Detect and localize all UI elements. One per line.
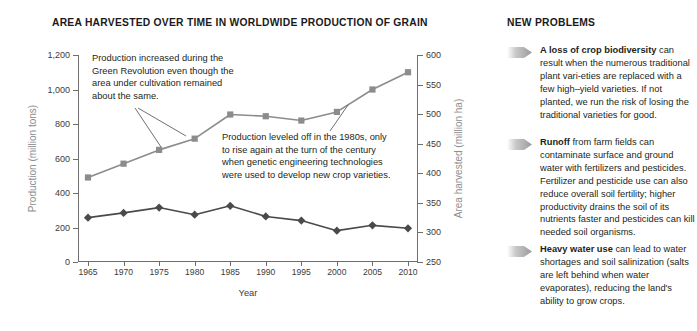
x-tick-label: 1980 [185,267,204,277]
data-point [333,227,341,235]
data-point [120,161,126,167]
data-point [298,117,304,123]
y-tick-label-right: 600 [426,50,441,60]
arrow-bullet-icon [507,45,532,58]
x-tick-label: 1970 [114,267,133,277]
x-tick-label: 2005 [363,267,382,277]
series-markers-area [84,202,412,235]
problems-panel: NEW PROBLEMS A loss of crop biodiversity… [492,0,697,331]
y-tick-label-left: 1,200 [47,50,70,60]
x-tick-label: 1965 [78,267,97,277]
data-point [404,224,412,232]
problem-body: from farm fields can contaminate surface… [540,137,695,237]
y-tick-label-left: 1,000 [47,85,70,95]
y-tick-label-left: 400 [55,188,70,198]
y-tick-right [417,262,423,263]
data-point [156,147,162,153]
problem-text: A loss of crop biodiversity can result w… [540,44,697,121]
data-point [84,214,92,222]
data-point [263,113,269,119]
x-tick-label: 1985 [221,267,240,277]
problem-text: Runoff from farm fields can contaminate … [540,136,697,239]
data-point [191,211,199,219]
y-tick-label-right: 450 [426,139,441,149]
y-tick-label-left: 0 [65,257,70,267]
x-tick-label: 1990 [256,267,275,277]
y-axis-title-left: Production (million tons) [26,55,40,262]
y-axis-title-left-text: Production (million tons) [28,105,39,212]
y-axis-title-right-text: Area harvested (million ha) [454,99,465,219]
problem-lead: Runoff [540,137,570,147]
annotation-green-revolution: Production increased during the Green Re… [92,52,237,102]
chart-title: AREA HARVESTED OVER TIME IN WORLDWIDE PR… [52,17,428,28]
problem-item: Runoff from farm fields can contaminate … [507,136,697,239]
arrow-bullet-icon [507,244,532,257]
y-tick-label-left: 600 [55,154,70,164]
data-point [262,212,270,220]
y-tick-label-right: 400 [426,168,441,178]
data-point [226,202,234,210]
y-tick-label-left: 800 [55,119,70,129]
y-tick-left [73,262,78,263]
data-point [405,69,411,75]
data-point [369,86,375,92]
series-line-area [88,206,408,231]
chart-panel: AREA HARVESTED OVER TIME IN WORLDWIDE PR… [0,0,487,331]
problem-item: A loss of crop biodiversity can result w… [507,44,697,121]
y-tick-label-left: 200 [55,223,70,233]
x-tick-label: 2000 [327,267,346,277]
data-point [119,209,127,217]
problem-lead: Heavy water use [540,244,613,254]
data-point [85,174,91,180]
problem-lead: A loss of crop biodiversity [540,45,656,55]
infographic-root: AREA HARVESTED OVER TIME IN WORLDWIDE PR… [0,0,697,331]
data-point [227,111,233,117]
data-point [297,217,305,225]
problem-item: Heavy water use can lead to water shorta… [507,243,697,308]
annotation-leveled-off: Production leveled off in the 1980s, onl… [222,131,397,181]
y-tick-label-right: 550 [426,80,441,90]
data-point [192,136,198,142]
y-tick-label-right: 350 [426,198,441,208]
x-axis-title: Year [78,288,418,298]
y-axis-title-right: Area harvested (million ha) [452,55,466,262]
data-point [368,221,376,229]
x-tick-label: 1995 [292,267,311,277]
problem-text: Heavy water use can lead to water shorta… [540,243,697,308]
data-point [334,109,340,115]
arrow-bullet-icon [507,137,532,150]
y-tick-label-right: 300 [426,227,441,237]
x-tick-label: 1975 [150,267,169,277]
y-tick-label-right: 250 [426,257,441,267]
data-point [155,203,163,211]
y-tick-label-right: 500 [426,109,441,119]
problems-title: NEW PROBLEMS [507,17,595,28]
problem-body: can result when the numerous traditional… [540,45,690,120]
x-tick-label: 2010 [398,267,417,277]
